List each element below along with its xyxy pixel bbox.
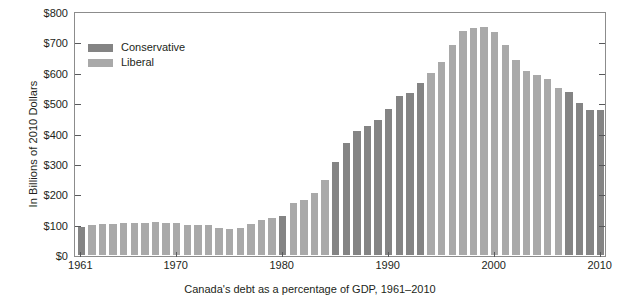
y-tick-label-700: $700 (8, 38, 68, 48)
y-tick-right-200 (599, 195, 605, 196)
bar-1967 (141, 223, 148, 255)
x-tick-2010 (600, 252, 601, 257)
bar-1975 (226, 229, 233, 255)
bar-2001 (502, 45, 509, 255)
legend-item-conservative: Conservative (88, 40, 185, 55)
bar-1970 (173, 223, 180, 255)
bar-1962 (88, 225, 95, 255)
y-tick-500 (75, 104, 81, 105)
bar-1995 (438, 62, 445, 255)
x-tick-label-2000: 2000 (464, 259, 524, 271)
bar-1987 (353, 131, 360, 255)
bar-1997 (459, 31, 466, 255)
bar-1991 (396, 96, 403, 255)
bar-1963 (99, 224, 106, 255)
bar-1999 (480, 27, 487, 255)
bar-2005 (544, 79, 551, 255)
y-tick-300 (75, 165, 81, 166)
bar-2003 (523, 71, 530, 255)
bar-1961 (78, 227, 85, 255)
x-tick-1980 (282, 252, 283, 257)
bar-1993 (417, 83, 424, 255)
legend-item-liberal: Liberal (88, 55, 185, 70)
legend-label-liberal: Liberal (121, 57, 154, 68)
bar-2009 (586, 110, 593, 255)
bar-1974 (215, 228, 222, 255)
y-tick-right-700 (599, 43, 605, 44)
y-tick-label-400: $400 (8, 130, 68, 140)
bar-2008 (576, 103, 583, 255)
bar-2002 (512, 60, 519, 255)
bar-1984 (321, 180, 328, 255)
bar-1980 (279, 216, 286, 255)
bar-1981 (290, 203, 297, 255)
bar-1977 (247, 224, 254, 255)
x-tick-label-1980: 1980 (252, 259, 312, 271)
bar-1992 (406, 93, 413, 256)
bar-1971 (184, 225, 191, 255)
bar-1969 (162, 223, 169, 255)
bar-1986 (343, 143, 350, 255)
y-tick-right-100 (599, 226, 605, 227)
x-tick-1961 (80, 252, 81, 257)
y-tick-right-600 (599, 74, 605, 75)
x-tick-2000 (494, 252, 495, 257)
legend-swatch-liberal (88, 59, 113, 67)
bar-1989 (374, 120, 381, 255)
bar-1966 (131, 223, 138, 256)
y-tick-label-300: $300 (8, 160, 68, 170)
x-tick-label-1990: 1990 (358, 259, 418, 271)
x-tick-label-1970: 1970 (146, 259, 206, 271)
y-tick-400 (75, 135, 81, 136)
bar-1990 (385, 109, 392, 255)
chart-caption: Canada's debt as a percentage of GDP, 19… (0, 283, 620, 295)
y-tick-600 (75, 74, 81, 75)
bar-1979 (268, 218, 275, 255)
bar-1983 (311, 193, 318, 255)
y-tick-700 (75, 43, 81, 44)
bar-1968 (152, 222, 159, 255)
bar-2007 (565, 92, 572, 255)
y-tick-label-200: $200 (8, 190, 68, 200)
bar-1964 (109, 224, 116, 255)
legend-swatch-conservative (88, 44, 113, 52)
bar-1988 (364, 126, 371, 255)
legend: Conservative Liberal (88, 40, 185, 70)
bar-2006 (555, 88, 562, 255)
y-tick-100 (75, 226, 81, 227)
y-tick-right-500 (599, 104, 605, 105)
bar-1982 (300, 200, 307, 255)
y-tick-label-100: $100 (8, 221, 68, 231)
bar-2000 (491, 32, 498, 255)
bar-1998 (470, 28, 477, 255)
bar-1976 (237, 228, 244, 255)
bar-1985 (332, 162, 339, 255)
bar-1994 (427, 73, 434, 255)
bar-1972 (194, 225, 201, 255)
legend-label-conservative: Conservative (121, 42, 185, 53)
y-tick-label-600: $600 (8, 69, 68, 79)
bar-2004 (533, 75, 540, 255)
bar-1978 (258, 220, 265, 255)
bar-2010 (597, 110, 604, 255)
y-tick-right-400 (599, 135, 605, 136)
x-tick-label-1961: 1961 (50, 259, 110, 271)
debt-bar-chart: In Billions of 2010 Dollars $0$100$200$3… (0, 0, 620, 302)
bar-1996 (449, 45, 456, 255)
y-tick-label-500: $500 (8, 99, 68, 109)
x-tick-label-2010: 2010 (570, 259, 620, 271)
y-tick-200 (75, 195, 81, 196)
y-tick-right-300 (599, 165, 605, 166)
x-tick-1990 (388, 252, 389, 257)
y-tick-label-800: $800 (8, 8, 68, 18)
bar-1965 (120, 223, 127, 256)
bar-1973 (205, 225, 212, 255)
x-tick-1970 (176, 252, 177, 257)
